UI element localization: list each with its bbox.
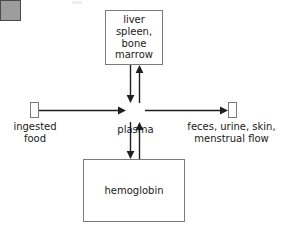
ingested-food-box <box>30 102 39 118</box>
arrow-ingested-to-plasma <box>39 107 126 115</box>
diagram-canvas: liver spleen, bone marrow ingested food … <box>0 0 283 234</box>
arrow-organ-to-plasma <box>127 65 135 103</box>
excretion-label: feces, urine, skin, menstrual flow <box>180 121 283 145</box>
plasma-node <box>0 0 21 21</box>
arrow-plasma-to-excretion <box>145 107 228 115</box>
excretion-box <box>228 102 237 118</box>
ingested-food-label: ingested food <box>2 121 68 145</box>
plasma-label: plasma <box>103 124 168 136</box>
hemoglobin-box-label: hemoglobin <box>83 159 185 222</box>
scan-artifact <box>72 1 82 4</box>
arrow-plasma-to-organ <box>136 65 144 103</box>
organ-box-label: liver spleen, bone marrow <box>105 10 163 65</box>
